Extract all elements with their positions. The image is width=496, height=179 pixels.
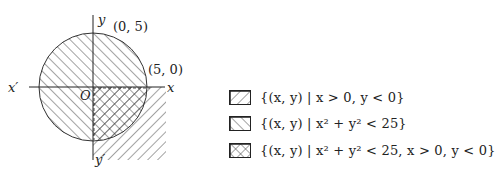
cross-hatch-icon bbox=[229, 143, 251, 158]
legend-item-intersection: {(x, y) | x² + y² < 25, x > 0, y < 0} bbox=[229, 141, 496, 159]
x-axis-label: x bbox=[167, 80, 175, 95]
x-neg-axis-label: x′ bbox=[8, 80, 18, 95]
legend-text: {(x, y) | x² + y² < 25, x > 0, y < 0} bbox=[260, 143, 496, 158]
point-label-0-5: (0, 5) bbox=[113, 19, 148, 34]
forward-hatch-icon bbox=[229, 90, 251, 105]
legend-item-quadrant: {(x, y) | x > 0, y < 0} bbox=[229, 88, 405, 106]
legend-item-circle: {(x, y) | x² + y² < 25} bbox=[229, 114, 407, 132]
back-hatch-icon bbox=[229, 116, 251, 131]
legend-text: {(x, y) | x² + y² < 25} bbox=[260, 116, 407, 131]
legend-text: {(x, y) | x > 0, y < 0} bbox=[260, 90, 405, 105]
point-label-5-0: (5, 0) bbox=[148, 62, 183, 77]
y-neg-axis-label: y′ bbox=[94, 152, 105, 167]
origin-label: O bbox=[80, 88, 91, 103]
y-axis-label: y bbox=[97, 12, 106, 27]
